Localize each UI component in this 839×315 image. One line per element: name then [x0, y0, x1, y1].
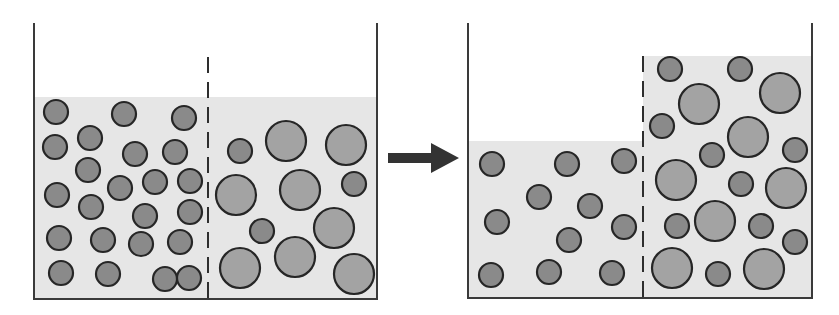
small-particle	[537, 260, 561, 284]
small-particle	[783, 230, 807, 254]
small-particle	[749, 214, 773, 238]
small-particle	[143, 170, 167, 194]
small-particle	[612, 215, 636, 239]
small-particle	[600, 261, 624, 285]
large-particle	[220, 248, 260, 288]
small-particle	[49, 261, 73, 285]
small-particle	[479, 263, 503, 287]
large-particle	[744, 249, 784, 289]
small-particle	[650, 114, 674, 138]
large-particle	[275, 237, 315, 277]
small-particle	[163, 140, 187, 164]
small-particle	[79, 195, 103, 219]
container-before	[34, 23, 377, 299]
small-particle	[153, 267, 177, 291]
container-after	[468, 23, 812, 298]
large-particle	[314, 208, 354, 248]
small-particle	[172, 106, 196, 130]
small-particle	[178, 200, 202, 224]
large-particle	[652, 248, 692, 288]
small-particle	[658, 57, 682, 81]
large-particle	[728, 117, 768, 157]
small-particle	[91, 228, 115, 252]
large-particle	[695, 201, 735, 241]
small-particle	[578, 194, 602, 218]
large-particle	[656, 160, 696, 200]
small-particle	[706, 262, 730, 286]
large-particle	[326, 125, 366, 165]
large-particle	[216, 175, 256, 215]
small-particle	[228, 139, 252, 163]
small-particle	[612, 149, 636, 173]
small-particle	[700, 143, 724, 167]
small-particle	[178, 169, 202, 193]
small-particle	[129, 232, 153, 256]
small-particle	[250, 219, 274, 243]
small-particle	[480, 152, 504, 176]
small-particle	[729, 172, 753, 196]
small-particle	[555, 152, 579, 176]
large-particle	[266, 121, 306, 161]
small-particle	[47, 226, 71, 250]
large-particle	[760, 73, 800, 113]
osmosis-diagram	[0, 0, 839, 315]
small-particle	[43, 135, 67, 159]
small-particle	[108, 176, 132, 200]
right-arrow-icon	[388, 143, 459, 173]
small-particle	[665, 214, 689, 238]
small-particle	[133, 204, 157, 228]
small-particle	[76, 158, 100, 182]
small-particle	[123, 142, 147, 166]
large-particle	[679, 84, 719, 124]
small-particle	[177, 266, 201, 290]
small-particle	[527, 185, 551, 209]
small-particle	[112, 102, 136, 126]
arrow-shape	[388, 143, 459, 173]
small-particle	[44, 100, 68, 124]
small-particle	[728, 57, 752, 81]
small-particle	[783, 138, 807, 162]
small-particle	[168, 230, 192, 254]
large-particle	[334, 254, 374, 294]
small-particle	[78, 126, 102, 150]
small-particle	[45, 183, 69, 207]
diagram-svg	[0, 0, 839, 315]
large-particle	[766, 168, 806, 208]
small-particle	[342, 172, 366, 196]
large-particle	[280, 170, 320, 210]
small-particle	[96, 262, 120, 286]
small-particle	[557, 228, 581, 252]
small-particle	[485, 210, 509, 234]
